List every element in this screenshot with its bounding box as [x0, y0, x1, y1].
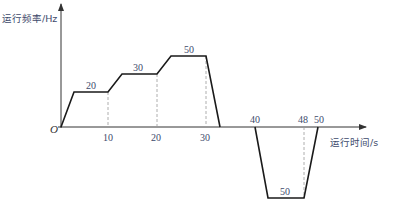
segment-label-30: 30 — [133, 62, 143, 73]
segment-label-reverse-50: 50 — [280, 186, 290, 197]
x-tick-10: 10 — [103, 132, 113, 143]
origin-label: O — [50, 123, 58, 135]
x-tick-30: 30 — [200, 132, 210, 143]
x-tick-20: 20 — [151, 132, 161, 143]
x-tick-48: 48 — [298, 114, 308, 125]
x-tick-50: 50 — [314, 114, 324, 125]
x-tick-40: 40 — [250, 114, 260, 125]
y-axis-label: 运行频率/Hz — [2, 13, 57, 24]
frequency-time-diagram: 运行频率/Hz 运行时间/s O 20 30 50 50 10 20 30 40… — [0, 0, 396, 215]
segment-label-50: 50 — [184, 44, 194, 55]
x-axis-label: 运行时间/s — [330, 137, 378, 148]
segment-label-20: 20 — [86, 80, 96, 91]
